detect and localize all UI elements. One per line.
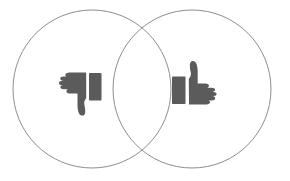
venn-diagram-canvas xyxy=(0,0,290,181)
venn-diagram-figure: Thumbs down / thumbs up Venn diagram xyxy=(0,0,290,181)
thumbs-up-cuff xyxy=(172,77,186,105)
thumbs-down-cuff xyxy=(89,73,102,101)
